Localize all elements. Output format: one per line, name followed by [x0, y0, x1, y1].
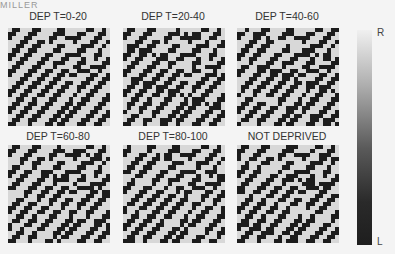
panel-title: DEP T=0-20	[3, 10, 113, 22]
pattern-panel	[237, 145, 339, 243]
panel-title: DEP T=60-80	[3, 130, 113, 142]
header-text: MILLER	[0, 0, 39, 10]
pattern-panel	[237, 28, 339, 126]
colorbar	[357, 30, 372, 245]
pattern-panel	[8, 145, 110, 243]
pattern-panel	[8, 28, 110, 126]
panel-title: DEP T=20-40	[118, 10, 228, 22]
panel-title: DEP T=80-100	[118, 130, 228, 142]
pattern-panel	[123, 28, 225, 126]
colorbar-top-label: R	[377, 27, 384, 38]
pattern-panel	[123, 145, 225, 243]
colorbar-bottom-label: L	[377, 236, 383, 247]
panel-title: NOT DEPRIVED	[232, 130, 342, 142]
panel-title: DEP T=40-60	[232, 10, 342, 22]
